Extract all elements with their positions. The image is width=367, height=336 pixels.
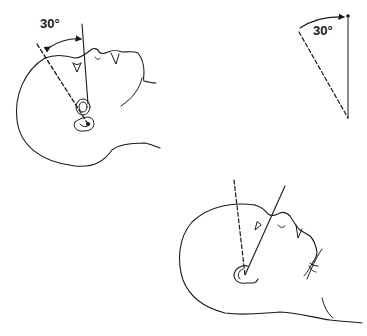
angle-label-panel-2: 30° [313, 24, 333, 37]
jaw-line [121, 78, 142, 106]
reference-line-solid [82, 24, 88, 104]
inner-ear [74, 99, 94, 131]
diagram-canvas: 30° 30° [0, 0, 367, 336]
axis-line-dashed [234, 180, 245, 275]
angle-line-dashed [299, 32, 348, 118]
panel-head-tilted [17, 24, 160, 166]
panel-head-extended [180, 180, 362, 323]
eye [255, 222, 261, 230]
neck-line [307, 249, 322, 279]
head-outline [180, 204, 362, 323]
throat-line [322, 298, 333, 318]
reference-line-solid [245, 186, 285, 275]
mouth [95, 57, 100, 59]
nose [111, 53, 119, 64]
eye [73, 63, 81, 72]
face-profile [255, 205, 317, 262]
face-profile [45, 49, 156, 83]
ear [234, 266, 258, 284]
vertex-dot [346, 14, 350, 18]
angle-label-panel-1: 30° [40, 17, 60, 30]
angle-arc [50, 39, 81, 47]
mouth [278, 225, 285, 227]
